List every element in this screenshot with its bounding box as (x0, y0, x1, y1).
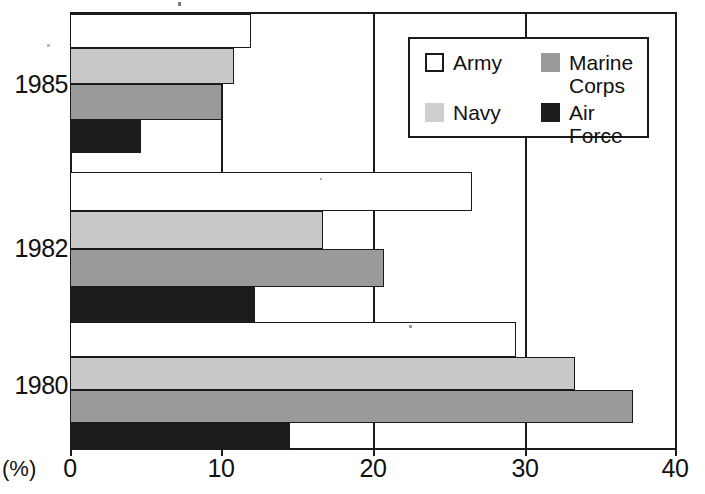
bar-1980-airforce (70, 423, 290, 450)
x-label-10: 10 (191, 456, 251, 481)
y-label-1982: 1982 (8, 236, 68, 261)
legend-label-air-force: Air Force (569, 101, 647, 147)
air-force-swatch-icon (541, 103, 560, 122)
navy-swatch-icon (425, 103, 444, 122)
legend: Army Marine Corps Navy Air Force (408, 37, 649, 138)
bar-1982-navy (70, 211, 323, 249)
scan-speck (320, 178, 322, 180)
legend-item-army: Army (425, 51, 502, 74)
legend-item-marine-corps: Marine Corps (541, 51, 633, 97)
bar-1985-army (70, 14, 251, 48)
legend-item-navy: Navy (425, 101, 501, 124)
bar-1985-airforce (70, 120, 141, 153)
bar-1980-army (70, 322, 516, 357)
x-axis-unit-label: (%) (2, 456, 36, 481)
bar-1980-navy (70, 357, 575, 390)
x-label-0: 0 (40, 456, 100, 481)
legend-item-air-force: Air Force (541, 101, 647, 147)
legend-label-marine-corps: Marine Corps (569, 51, 633, 97)
legend-label-navy: Navy (453, 101, 501, 124)
bar-1982-marine (70, 249, 384, 287)
x-label-40: 40 (645, 456, 705, 481)
bar-1982-army (70, 172, 472, 211)
army-swatch-icon (425, 53, 444, 72)
marine-corps-swatch-icon (541, 53, 560, 72)
scan-speck (178, 2, 181, 6)
y-label-1985: 1985 (8, 72, 68, 97)
x-label-30: 30 (495, 456, 555, 481)
bar-1985-marine (70, 84, 222, 120)
bar-1980-marine (70, 390, 633, 423)
scan-speck (47, 44, 50, 47)
bar-1982-airforce (70, 287, 255, 323)
scan-speck (409, 325, 412, 328)
x-label-20: 20 (343, 456, 403, 481)
y-label-1980: 1980 (8, 373, 68, 398)
legend-label-army: Army (453, 51, 502, 74)
bar-chart: 1985 1982 1980 (%) 0 10 20 30 40 Army Ma… (0, 0, 705, 494)
bar-1985-navy (70, 48, 234, 84)
